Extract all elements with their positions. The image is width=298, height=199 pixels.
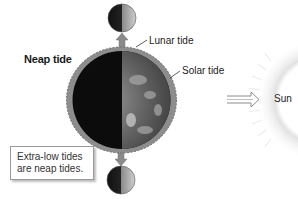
double-line-arrow-right-icon [227, 92, 259, 107]
lunar-tide-leader [136, 40, 147, 47]
moon-top-icon [108, 4, 136, 32]
tidal-arrow-top-icon [116, 33, 128, 48]
moon-bottom-icon [107, 166, 135, 194]
tidal-arrow-bottom-icon [115, 152, 127, 166]
solar-tide-label: Solar tide [182, 65, 224, 76]
earth-icon [73, 51, 171, 149]
sun-label: Sun [274, 93, 292, 104]
note-line-1: Extra-low tides [17, 151, 93, 163]
neap-tide-note: Extra-low tides are neap tides. [10, 146, 94, 180]
diagram-title: Neap tide [24, 53, 72, 65]
note-line-2: are neap tides. [17, 163, 93, 175]
solar-tide-leader [170, 71, 180, 78]
lunar-tide-label: Lunar tide [149, 35, 193, 46]
